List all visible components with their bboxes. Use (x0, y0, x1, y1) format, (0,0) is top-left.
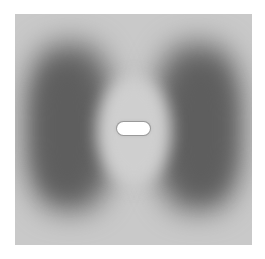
pattern-image (15, 14, 252, 245)
left-dark-lobe-core (37, 64, 97, 194)
right-dark-lobe-core (171, 64, 231, 194)
center-slot (117, 122, 150, 135)
